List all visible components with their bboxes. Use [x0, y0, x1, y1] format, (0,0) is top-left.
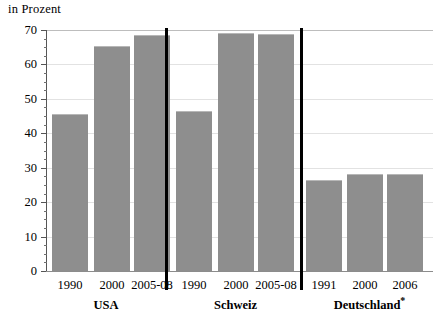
y-tick-minor: [44, 47, 48, 48]
y-axis-ticks: 010203040506070: [0, 30, 47, 272]
y-tick-label: 40: [25, 127, 38, 139]
group-label-text: Schweiz: [214, 298, 257, 312]
bar: [387, 174, 423, 271]
y-tick-minor: [44, 254, 48, 255]
group-label-usa: USA: [36, 298, 176, 312]
y-tick-label: 20: [25, 196, 38, 208]
y-tick-major: [41, 133, 47, 134]
y-axis-unit-title: in Prozent: [8, 2, 61, 16]
plot-area: [47, 30, 433, 271]
y-tick-label: 60: [25, 58, 38, 70]
group-label-schweiz: Schweiz: [166, 298, 306, 312]
y-tick-minor: [44, 228, 48, 229]
bar: [176, 111, 212, 271]
group-label-deutschland: Deutschland*: [300, 298, 440, 312]
y-tick-major: [41, 64, 47, 65]
y-tick-minor: [44, 56, 48, 57]
y-tick-label: 0: [31, 265, 37, 277]
y-tick-major: [41, 168, 47, 169]
group-label-text: Deutschland: [334, 298, 401, 312]
group-separator: [165, 28, 168, 290]
y-tick-minor: [44, 73, 48, 74]
y-tick-minor: [44, 125, 48, 126]
y-tick-minor: [44, 185, 48, 186]
y-tick-label: 50: [25, 93, 38, 105]
y-tick-label: 10: [25, 231, 38, 243]
y-tick-minor: [44, 211, 48, 212]
bar: [52, 114, 88, 271]
y-tick-major: [41, 202, 47, 203]
y-tick-minor: [44, 159, 48, 160]
y-tick-minor: [44, 176, 48, 177]
group-label-text: USA: [93, 298, 118, 312]
y-tick-major: [41, 30, 47, 31]
y-tick-minor: [44, 82, 48, 83]
y-tick-minor: [44, 151, 48, 152]
y-tick-label: 30: [25, 162, 38, 174]
y-tick-minor: [44, 194, 48, 195]
y-tick-minor: [44, 39, 48, 40]
y-tick-major: [41, 99, 47, 100]
y-tick-minor: [44, 90, 48, 91]
y-tick-minor: [44, 116, 48, 117]
bar-chart: in Prozent 010203040506070 199020002005-…: [0, 0, 440, 321]
y-tick-minor: [44, 262, 48, 263]
x-tick-label: 2006: [365, 278, 440, 292]
y-tick-minor: [44, 107, 48, 108]
y-tick-minor: [44, 142, 48, 143]
bar: [94, 46, 130, 272]
bar: [218, 33, 254, 271]
x-axis-baseline: [46, 271, 433, 272]
group-separator: [300, 28, 303, 290]
y-tick-label: 70: [25, 24, 38, 36]
footnote-marker: *: [400, 295, 405, 306]
y-tick-minor: [44, 219, 48, 220]
bar: [258, 34, 294, 271]
bar: [306, 180, 342, 271]
gridline: [47, 30, 433, 31]
bar: [347, 174, 383, 271]
y-tick-minor: [44, 245, 48, 246]
y-tick-major: [41, 237, 47, 238]
